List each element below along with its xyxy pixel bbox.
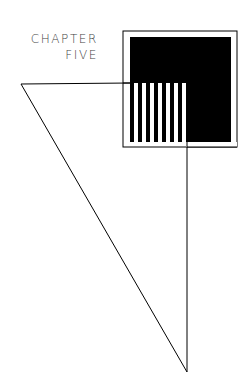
art-deco-graphic xyxy=(0,0,244,375)
